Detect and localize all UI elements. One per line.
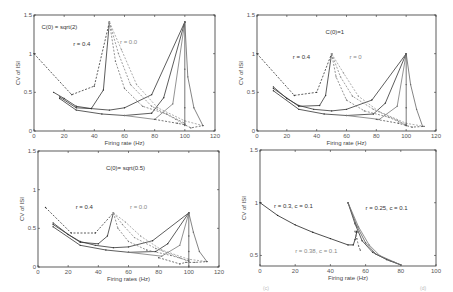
chart-annotation: r = 0.25, c = 0.1 <box>366 205 409 211</box>
x-tick-label: 20 <box>61 133 68 139</box>
data-point-marker <box>193 232 194 233</box>
data-point-marker <box>398 123 399 124</box>
data-point-marker <box>95 245 96 246</box>
data-series <box>113 213 188 262</box>
data-series <box>34 22 109 95</box>
data-point-marker <box>358 226 359 227</box>
x-tick-label: 120 <box>431 133 442 139</box>
data-point-marker <box>273 88 274 89</box>
data-point-marker <box>356 231 357 232</box>
data-point-marker <box>130 84 131 85</box>
data-point-marker <box>175 119 176 120</box>
x-axis-label: Firing rate (Hz) <box>328 275 368 281</box>
data-point-marker <box>94 85 95 86</box>
data-point-marker <box>340 76 341 77</box>
data-point-marker <box>124 107 125 108</box>
data-point-marker <box>91 108 92 109</box>
y-tick-label: 1 <box>255 200 259 206</box>
data-point-marker <box>118 53 119 54</box>
data-series <box>347 54 407 120</box>
data-point-marker <box>360 249 361 250</box>
data-point-marker <box>331 53 332 54</box>
data-point-marker <box>113 212 114 213</box>
data-point-marker <box>323 113 324 114</box>
data-point-marker <box>152 240 153 241</box>
data-point-marker <box>163 97 164 98</box>
data-point-marker <box>157 107 158 108</box>
footer-label-d: (d) <box>420 285 426 291</box>
data-point-marker <box>330 238 331 239</box>
data-point-marker <box>423 126 424 127</box>
x-tick-label: 80 <box>397 268 404 274</box>
data-point-marker <box>385 102 386 103</box>
x-tick-label: 80 <box>155 269 162 275</box>
chart-annotation: r = 0.4 <box>73 41 91 47</box>
x-tick-label: 60 <box>362 268 369 274</box>
data-point-marker <box>206 261 207 262</box>
data-point-marker <box>331 110 332 111</box>
x-tick-label: 120 <box>214 269 225 275</box>
data-point-marker <box>113 247 114 248</box>
y-tick-label: 1.5 <box>250 147 259 153</box>
data-point-marker <box>273 86 274 87</box>
data-point-marker <box>277 215 278 216</box>
chart-annotation: C(0)=1 <box>326 29 345 35</box>
chart-annotation: r = 0.38, c = 0.1 <box>295 248 338 254</box>
data-point-marker <box>76 106 77 107</box>
data-point-marker <box>117 228 118 229</box>
data-point-marker <box>405 84 406 85</box>
data-point-marker <box>45 207 46 208</box>
data-series <box>185 22 203 126</box>
data-point-marker <box>361 240 362 241</box>
data-point-marker <box>347 202 348 203</box>
y-tick-label: 1.5 <box>247 12 256 18</box>
data-point-marker <box>121 49 122 50</box>
x-tick-label: 120 <box>210 133 221 139</box>
data-series <box>406 54 422 127</box>
data-point-marker <box>76 109 77 110</box>
y-tick-label: 1 <box>252 51 256 57</box>
y-tick-label: 1.5 <box>24 12 33 18</box>
data-series <box>46 208 114 234</box>
data-series <box>113 213 206 262</box>
data-point-marker <box>410 84 411 85</box>
data-point-marker <box>177 123 178 124</box>
data-series <box>109 22 184 125</box>
data-point-marker <box>184 124 185 125</box>
y-tick-label: 1 <box>29 51 33 57</box>
data-point-marker <box>405 125 406 126</box>
x-tick-label: 40 <box>313 133 320 139</box>
data-point-marker <box>128 241 129 242</box>
x-tick-label: 0 <box>36 269 40 275</box>
data-point-marker <box>298 109 299 110</box>
data-point-marker <box>365 242 366 243</box>
y-axis-label: CV of ISI <box>241 196 247 220</box>
data-point-marker <box>325 95 326 96</box>
chart-annotation: r = 0 <box>349 54 362 60</box>
data-point-marker <box>353 244 354 245</box>
data-series <box>348 203 401 265</box>
chart-annotation: C(0) = sqrt(2) <box>42 24 78 30</box>
data-point-marker <box>298 106 299 107</box>
data-point-marker <box>80 245 81 246</box>
data-point-marker <box>319 105 320 106</box>
data-point-marker <box>379 255 380 256</box>
data-point-marker <box>105 249 106 250</box>
data-point-marker <box>52 222 53 223</box>
data-point-marker <box>59 98 60 99</box>
data-point-marker <box>59 96 60 97</box>
data-point-marker <box>161 255 162 256</box>
data-point-marker <box>358 96 359 97</box>
data-point-marker <box>411 126 412 127</box>
data-point-marker <box>103 89 104 90</box>
chart-annotation: C(0)= sqrt(0.5) <box>106 165 145 171</box>
data-point-marker <box>151 113 152 114</box>
data-point-marker <box>312 232 313 233</box>
data-point-marker <box>128 252 129 253</box>
x-tick-label: 0 <box>255 133 259 139</box>
data-point-marker <box>52 224 53 225</box>
data-point-marker <box>202 125 203 126</box>
panel-top-left: 02040608010012000.511.5Firing rate (Hz)C… <box>15 12 221 146</box>
data-point-marker <box>188 212 189 213</box>
panel-top-right: 02040608010012000.511.5Firing rate (Hz)C… <box>238 12 442 146</box>
